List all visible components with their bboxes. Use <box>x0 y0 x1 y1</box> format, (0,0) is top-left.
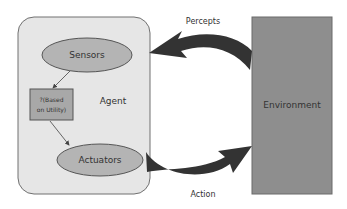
action-label: Action <box>190 190 215 199</box>
sensors-label: Sensors <box>69 50 105 60</box>
action-arrow-icon <box>146 146 252 174</box>
percepts-arrow-icon <box>149 31 252 70</box>
decision-box <box>30 89 73 120</box>
decision-box-line2: on Utility) <box>37 106 66 114</box>
agent-label: Agent <box>100 96 127 106</box>
percepts-label: Percepts <box>186 17 220 26</box>
environment-label: Environment <box>263 100 321 110</box>
actuators-label: Actuators <box>78 155 121 165</box>
decision-box-line1: ?(Based <box>40 96 64 103</box>
